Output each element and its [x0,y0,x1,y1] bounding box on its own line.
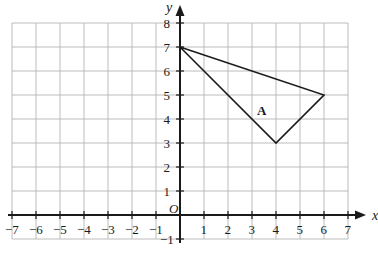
x-tick-label: 2 [225,223,232,236]
y-tick-label: 2 [164,161,171,174]
x-tick-label: −3 [101,223,115,236]
x-axis-arrowhead [355,211,366,220]
x-axis-label: x [372,209,378,223]
y-axis-label: y [166,1,172,15]
x-tick-label: 5 [297,223,304,236]
y-tick-label: 1 [164,185,171,198]
y-axis-arrowhead [176,5,185,16]
y-tick-label: 4 [164,113,171,126]
y-tick-label: 5 [164,89,171,102]
origin-label: O [169,202,178,215]
y-tick-label: 3 [164,137,171,150]
x-tick-label: 7 [345,223,352,236]
x-tick-label: −2 [125,223,139,236]
x-tick-label: 6 [321,223,328,236]
y-tick-label: −1 [160,233,174,246]
y-tick-label: 6 [164,65,171,78]
x-tick-label: −4 [77,223,91,236]
x-tick-label: 3 [249,223,256,236]
x-tick-label: 4 [273,223,280,236]
axis-lines [8,5,366,243]
shape-label-A: A [257,104,266,117]
x-tick-label: 1 [201,223,208,236]
x-tick-label: −7 [5,223,19,236]
x-tick-label: −5 [53,223,67,236]
y-tick-label: 8 [164,17,171,30]
x-tick-label: −6 [29,223,43,236]
y-tick-label: 7 [164,41,171,54]
